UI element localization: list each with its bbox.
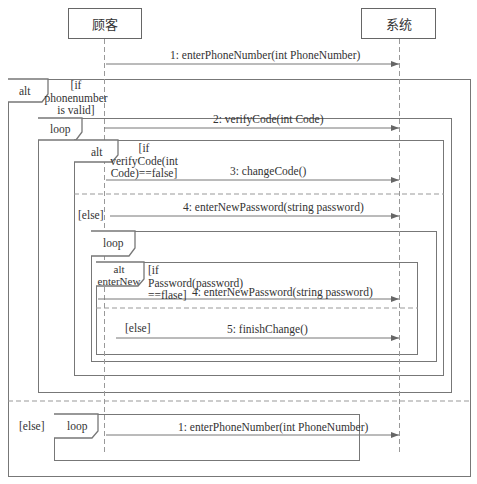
- alt-verify-else-guard: [else]: [78, 209, 104, 222]
- outer-alt-operator: alt: [19, 85, 31, 98]
- alt-verify-guard: [if verifyCode(int Code)==false]: [110, 142, 178, 180]
- alt-verify-operator: alt: [91, 146, 103, 159]
- message-7-label: 1: enterPhoneNumber(int PhoneNumber): [178, 421, 368, 434]
- diagram-lines: [0, 0, 477, 484]
- alt-enternew-operator: alt enterNew: [97, 264, 141, 287]
- message-6-label: 5: finishChange(): [227, 323, 308, 336]
- outer-alt-guard: [if phonenumber is valid]: [44, 79, 108, 117]
- message-2-label: 2: verifyCode(int Code): [213, 113, 324, 126]
- outer-alt-else-guard: [else]: [19, 420, 45, 433]
- loop2-operator: loop: [103, 237, 123, 250]
- message-5-label: 4: enterNewPassword(string password): [192, 286, 373, 299]
- loop3-operator: loop: [67, 420, 87, 433]
- loop1-operator: loop: [50, 123, 70, 136]
- message-1-label: 1: enterPhoneNumber(int PhoneNumber): [170, 49, 360, 62]
- message-3-label: 3: changeCode(): [230, 165, 306, 178]
- message-4-label: 4: enterNewPassword(string password): [183, 201, 364, 214]
- alt-enternew-else-guard: [else]: [125, 322, 151, 335]
